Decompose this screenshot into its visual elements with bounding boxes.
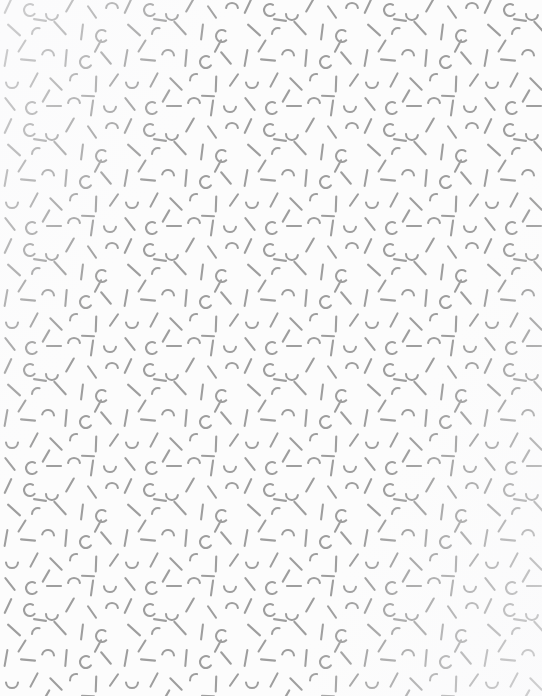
- pattern-fill-rect: [0, 0, 542, 696]
- pattern-canvas: [0, 0, 542, 696]
- pattern-tile-layer: [0, 0, 542, 696]
